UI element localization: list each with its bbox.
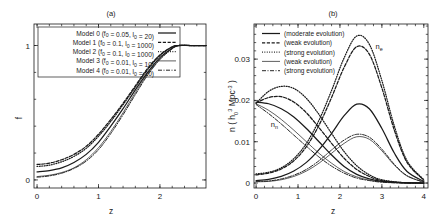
legend-item-label: (moderate evolution) bbox=[284, 30, 344, 38]
legend-item-label: (weak evolution) bbox=[284, 39, 332, 47]
y-tick-label: 1 bbox=[26, 42, 31, 51]
x-tick-label: 1 bbox=[296, 192, 301, 201]
panel-b-ylabel: n ( h03 Mpc-3 ) bbox=[227, 80, 239, 132]
y-tick-label: 0 bbox=[246, 179, 251, 188]
panel-a-xlabel: z bbox=[109, 206, 113, 216]
curve-label-nn: nn bbox=[271, 120, 278, 130]
panel-a: (a) 01201 z f Model 0 (f0 = 0.05, l0 = 2… bbox=[0, 0, 222, 224]
x-tick-label: 3 bbox=[380, 192, 385, 201]
x-tick-label: 4 bbox=[422, 192, 427, 201]
panel-b-legend: (moderate evolution)(weak evolution)(str… bbox=[262, 30, 344, 75]
y-tick-label: 0.01 bbox=[234, 138, 250, 147]
x-tick-label: 2 bbox=[338, 192, 343, 201]
panel-b-xlabel: z bbox=[331, 206, 335, 216]
figure-container: (a) 01201 z f Model 0 (f0 = 0.05, l0 = 2… bbox=[0, 0, 444, 224]
y-tick-label: 0 bbox=[26, 176, 31, 185]
legend-item-label: (weak evolution) bbox=[284, 58, 332, 66]
data-curve bbox=[256, 35, 424, 179]
y-tick-label: 0.03 bbox=[234, 55, 250, 64]
panel-a-legend: Model 0 (f0 = 0.05, l0 = 20)Model 1 (f0 … bbox=[38, 27, 180, 78]
panel-b-title: (b) bbox=[328, 9, 338, 18]
x-tick-label: 0 bbox=[254, 192, 259, 201]
panel-b-tick-labels: 0123400.010.020.03 bbox=[234, 55, 426, 201]
x-tick-label: 2 bbox=[158, 192, 163, 201]
panel-a-ylabel: f bbox=[14, 116, 24, 119]
panel-b-svg: (b) 0123400.010.020.03 z n ( h03 Mpc-3 )… bbox=[222, 0, 444, 224]
legend-item-label: Model 4 (f0 = 0.01, l0 = 10) bbox=[76, 67, 154, 78]
panel-b-ylabel-text: n ( h03 Mpc-3 ) bbox=[227, 80, 239, 132]
panel-b-curves bbox=[256, 35, 424, 183]
x-tick-label: 0 bbox=[35, 192, 40, 201]
legend-item-label: (strong evolution) bbox=[284, 49, 335, 57]
x-tick-label: 1 bbox=[96, 192, 101, 201]
curve-label-ne: ne bbox=[376, 42, 383, 52]
panel-a-title: (a) bbox=[106, 9, 116, 18]
data-curve bbox=[256, 105, 424, 184]
panel-a-svg: (a) 01201 z f Model 0 (f0 = 0.05, l0 = 2… bbox=[0, 0, 222, 224]
legend-item-label: (strong evolution) bbox=[284, 67, 335, 75]
panel-b: (b) 0123400.010.020.03 z n ( h03 Mpc-3 )… bbox=[222, 0, 444, 224]
